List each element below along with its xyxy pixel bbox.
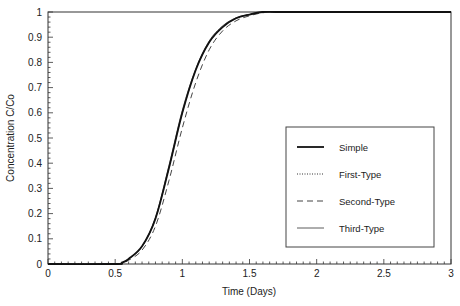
y-tick-label: 0.1: [28, 233, 42, 244]
x-tick-label: 2: [314, 268, 320, 279]
x-tick-label: 1.5: [243, 268, 257, 279]
y-tick-label: 0.5: [28, 133, 42, 144]
y-tick-label: 0.4: [28, 158, 42, 169]
y-tick-label: 0.6: [28, 107, 42, 118]
x-tick-label: 3: [448, 268, 454, 279]
y-tick-label: 1: [36, 7, 42, 18]
y-tick-label: 0.7: [28, 82, 42, 93]
y-tick-label: 0.9: [28, 32, 42, 43]
x-tick-label: 2.5: [377, 268, 391, 279]
y-tick-label: 0.3: [28, 183, 42, 194]
x-axis-title: Time (Days): [222, 286, 276, 297]
legend-label: Simple: [339, 142, 368, 153]
legend-label: First-Type: [339, 169, 381, 180]
y-tick-label: 0: [36, 259, 42, 270]
x-tick-label: 0: [45, 268, 51, 279]
legend-label: Third-Type: [339, 223, 384, 234]
x-tick-label: 0.5: [108, 268, 122, 279]
legend-label: Second-Type: [339, 196, 395, 207]
legend: SimpleFirst-TypeSecond-TypeThird-Type: [286, 127, 434, 247]
y-tick-label: 0.2: [28, 208, 42, 219]
y-axis-title: Concentration C/Co: [5, 94, 16, 182]
x-tick-label: 1: [180, 268, 186, 279]
breakthrough-curve-chart: 00.511.522.53 00.10.20.30.40.50.60.70.80…: [0, 0, 460, 306]
y-tick-label: 0.8: [28, 57, 42, 68]
